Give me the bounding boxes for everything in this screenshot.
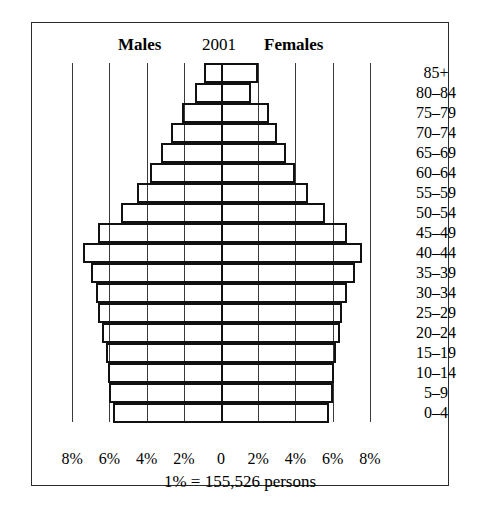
bar-males-25–29 <box>98 303 221 323</box>
bar-females-35–39 <box>221 263 355 283</box>
bar-females-10–14 <box>221 363 334 383</box>
age-label-55–59: 55–59 <box>392 183 480 203</box>
xtick-label-8pct: 8% <box>359 447 380 471</box>
xtick-label-2pct: 2% <box>173 447 194 471</box>
age-group-axis: 85+80–8475–7970–7465–6960–6455–5950–5445… <box>392 63 480 423</box>
x-axis-tick-labels: 8%6%4%2%02%4%6%8% <box>32 447 448 471</box>
age-label-0–4: 0–4 <box>392 403 480 423</box>
bar-females-40–44 <box>221 243 362 263</box>
bar-males-70–74 <box>171 123 221 143</box>
bar-males-10–14 <box>108 363 221 383</box>
bar-females-85+ <box>221 63 258 83</box>
age-label-45–49: 45–49 <box>392 223 480 243</box>
xtick-label-6pct: 6% <box>322 447 343 471</box>
bar-females-70–74 <box>221 123 277 143</box>
bar-males-65–69 <box>161 143 221 163</box>
chart-footnote: 1% = 155,526 persons <box>32 472 448 492</box>
xtick-label-2pct: 2% <box>248 447 269 471</box>
age-label-5–9: 5–9 <box>392 383 480 403</box>
age-label-15–19: 15–19 <box>392 343 480 363</box>
bar-females-0–4 <box>221 403 329 423</box>
bar-males-15–19 <box>106 343 221 363</box>
chart-year-title: 2001 <box>202 36 236 53</box>
bar-females-75–79 <box>221 103 269 123</box>
bar-males-60–64 <box>150 163 221 183</box>
xtick-label-8pct: 8% <box>62 447 83 471</box>
legend-label-females: Females <box>264 36 323 53</box>
bar-males-80–84 <box>195 83 221 103</box>
bar-males-35–39 <box>91 263 221 283</box>
bar-females-20–24 <box>221 323 340 343</box>
bar-females-30–34 <box>221 283 347 303</box>
xtick-label-6pct: 6% <box>99 447 120 471</box>
bar-females-15–19 <box>221 343 336 363</box>
chart-frame: Males 2001 Females 85+80–8475–7970–7465–… <box>31 22 449 486</box>
age-label-70–74: 70–74 <box>392 123 480 143</box>
bar-males-50–54 <box>121 203 221 223</box>
bar-males-20–24 <box>102 323 221 343</box>
age-label-35–39: 35–39 <box>392 263 480 283</box>
age-label-50–54: 50–54 <box>392 203 480 223</box>
bar-males-45–49 <box>98 223 221 243</box>
xtick-label-4pct: 4% <box>136 447 157 471</box>
age-label-80–84: 80–84 <box>392 83 480 103</box>
bar-males-75–79 <box>182 103 221 123</box>
xtick-label-0: 0 <box>217 447 225 471</box>
pyramid-plot-area <box>32 63 448 444</box>
bar-females-60–64 <box>221 163 295 183</box>
age-label-65–69: 65–69 <box>392 143 480 163</box>
bar-females-65–69 <box>221 143 286 163</box>
bar-females-5–9 <box>221 383 333 403</box>
bar-females-45–49 <box>221 223 347 243</box>
age-label-60–64: 60–64 <box>392 163 480 183</box>
age-label-25–29: 25–29 <box>392 303 480 323</box>
bar-males-85+ <box>204 63 221 83</box>
age-label-10–14: 10–14 <box>392 363 480 383</box>
age-label-85+: 85+ <box>392 63 480 83</box>
age-label-20–24: 20–24 <box>392 323 480 343</box>
xtick-label-4pct: 4% <box>285 447 306 471</box>
bar-females-50–54 <box>221 203 325 223</box>
pyramid-bars <box>32 63 448 422</box>
bar-males-0–4 <box>113 403 221 423</box>
bar-males-40–44 <box>83 243 221 263</box>
bar-females-25–29 <box>221 303 342 323</box>
legend-label-males: Males <box>118 36 161 53</box>
bar-females-55–59 <box>221 183 308 203</box>
bar-males-55–59 <box>137 183 221 203</box>
bar-females-80–84 <box>221 83 251 103</box>
age-label-75–79: 75–79 <box>392 103 480 123</box>
age-label-40–44: 40–44 <box>392 243 480 263</box>
bar-males-5–9 <box>109 383 221 403</box>
bar-males-30–34 <box>96 283 221 303</box>
age-label-30–34: 30–34 <box>392 283 480 303</box>
